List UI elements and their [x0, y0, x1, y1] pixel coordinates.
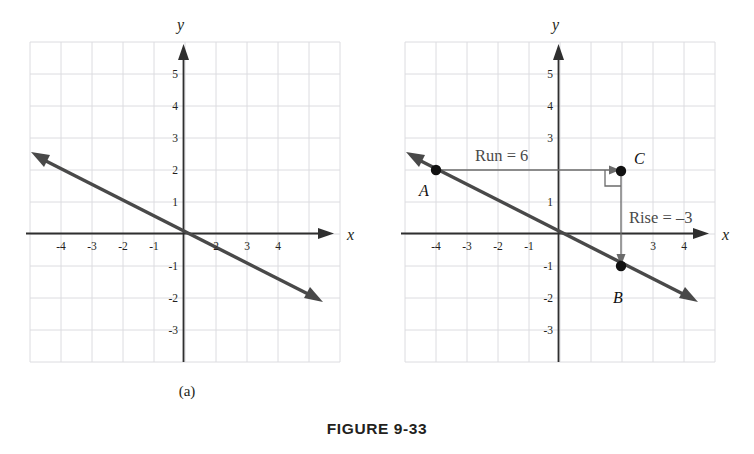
y-tick-a-6: -2: [168, 292, 178, 304]
point-b: [616, 261, 626, 271]
point-label-a: A: [418, 182, 429, 199]
line-series-b: [406, 152, 698, 302]
y-axis-label-a: y: [175, 16, 185, 34]
y-tick-b-6: -3: [543, 324, 553, 336]
run-annotation: Run = 6: [475, 146, 528, 165]
point-c: [616, 166, 626, 176]
panel-b: A B C Run = 6 Rise = –3 -4 -3 -2 -1 3 4 …: [377, 0, 754, 454]
x-tick-b-0: -4: [431, 240, 441, 252]
line-arrow-left-a: [31, 152, 50, 167]
y-tick-b-5: -2: [543, 292, 553, 304]
x-tick-a-0: -4: [56, 240, 66, 252]
figure-label: FIGURE 9-33: [0, 420, 754, 438]
y-tick-b-0: 5: [547, 68, 553, 80]
x-tick-a-3: -1: [149, 240, 159, 252]
line-arrow-right-b: [679, 287, 698, 302]
x-axis-arrow-a: [318, 228, 334, 239]
x-tick-a-5: 3: [244, 240, 250, 252]
y-tick-a-2: 3: [172, 132, 178, 144]
y-tick-a-5: -1: [168, 260, 178, 272]
y-tick-b-2: 3: [547, 132, 553, 144]
rise-annotation: Rise = –3: [629, 208, 692, 227]
axes-b: [401, 44, 709, 362]
x-tick-a-6: 4: [275, 240, 281, 252]
x-tick-b-3: -1: [524, 240, 534, 252]
x-tick-a-4: 2: [213, 240, 219, 252]
x-axis-label-b: x: [721, 226, 729, 243]
x-tick-a-1: -3: [87, 240, 97, 252]
y-axis-arrow-b: [553, 44, 564, 60]
panel-a: -4 -3 -2 -1 2 3 4 5 4 3 2 1 -1 -2 -3 x: [0, 0, 377, 454]
x-tick-b-2: -2: [493, 240, 503, 252]
y-tick-b-1: 4: [547, 100, 553, 112]
y-tick-a-1: 4: [172, 100, 178, 112]
y-axis-label-b: y: [550, 16, 560, 34]
y-tick-a-3: 2: [172, 164, 178, 176]
graph-a: -4 -3 -2 -1 2 3 4 5 4 3 2 1 -1 -2 -3 x: [0, 0, 377, 380]
x-tick-b-4: 3: [650, 240, 656, 252]
axes-a: [26, 44, 334, 362]
graph-b: A B C Run = 6 Rise = –3 -4 -3 -2 -1 3 4 …: [377, 0, 754, 380]
grid-lines-a: [30, 42, 340, 362]
y-tick-a-0: 5: [172, 68, 178, 80]
x-tick-b-1: -3: [462, 240, 472, 252]
x-axis-label-a: x: [346, 226, 354, 243]
figure-9-33: -4 -3 -2 -1 2 3 4 5 4 3 2 1 -1 -2 -3 x: [0, 0, 754, 454]
y-axis-arrow-a: [178, 44, 189, 60]
y-tick-b-4: -1: [543, 260, 553, 272]
x-tick-labels-a: -4 -3 -2 -1 2 3 4: [56, 240, 281, 252]
y-tick-b-3: 1: [547, 196, 553, 208]
line-arrow-right-a: [304, 287, 323, 302]
point-label-b: B: [613, 289, 623, 306]
point-a: [431, 165, 441, 175]
grid-lines-b: [405, 42, 715, 362]
x-axis-arrow-b: [693, 228, 709, 239]
x-tick-a-2: -2: [118, 240, 128, 252]
line-arrow-left-b: [406, 152, 425, 167]
point-label-c: C: [634, 150, 645, 167]
y-tick-a-7: -3: [168, 324, 178, 336]
y-tick-a-4: 1: [172, 196, 178, 208]
panel-caption-a: (a): [157, 383, 217, 400]
x-tick-b-5: 4: [681, 240, 687, 252]
